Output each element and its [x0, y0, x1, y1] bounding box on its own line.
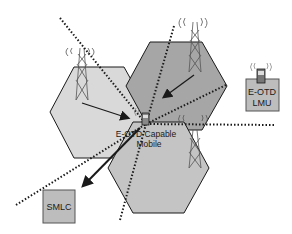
smlc-label: SMLC	[46, 202, 72, 212]
lmu-box: E-OTD LMU	[246, 63, 279, 111]
mobile-label: E-OTD Capable	[116, 129, 177, 139]
smlc-box: SMLC	[43, 190, 75, 223]
e-otd-diagram: E-OTD Capable Mobile E-OTD LMU SMLC	[0, 0, 292, 234]
mobile-label-2: Mobile	[136, 139, 161, 149]
lmu-label: E-OTD	[248, 87, 276, 97]
lmu-label-2: LMU	[252, 98, 271, 108]
